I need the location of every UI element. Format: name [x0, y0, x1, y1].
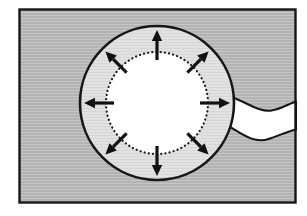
pressure-chamber-diagram [0, 0, 307, 216]
figure-page [0, 0, 307, 216]
